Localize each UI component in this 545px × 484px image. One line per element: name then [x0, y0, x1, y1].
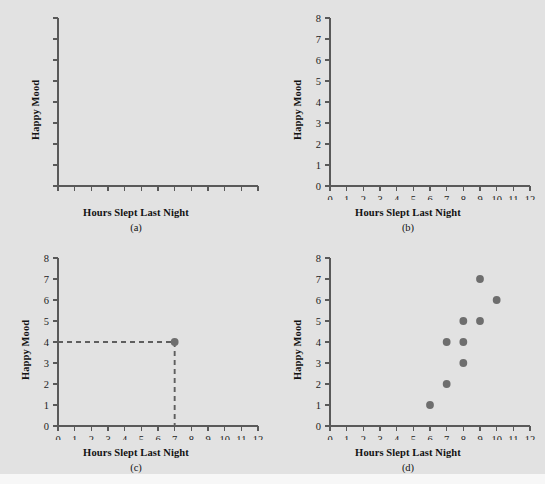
x-tick-label-12: 12	[525, 194, 536, 200]
data-point-4	[459, 359, 467, 367]
y-tick-label-4: 4	[316, 97, 322, 108]
data-point-1	[171, 338, 179, 346]
x-tick-label-7: 7	[172, 434, 177, 440]
y-tick-label-8: 8	[316, 253, 321, 264]
y-tick-label-0: 0	[316, 421, 321, 432]
x-tick-label-10: 10	[491, 434, 502, 440]
panel-caption-b: (b)	[272, 222, 544, 233]
y-tick-label-2: 2	[316, 139, 321, 150]
x-tick-label-0: 0	[55, 434, 60, 440]
x-tick-label-9: 9	[205, 434, 210, 440]
y-tick-label-1: 1	[44, 400, 49, 411]
x-tick-label-4: 4	[122, 434, 128, 440]
x-tick-label-3: 3	[377, 434, 382, 440]
y-tick-label-6: 6	[44, 295, 49, 306]
panel-d: 0123456789101112012345678 Hours Slept La…	[272, 240, 544, 477]
data-point-5	[459, 338, 467, 346]
plot-area-c: 0123456789101112012345678	[0, 240, 272, 440]
x-axis-title-d: Hours Slept Last Night	[272, 447, 544, 458]
y-axis-title-b: Happy Mood	[292, 80, 303, 140]
panel-b: 0123456789101112012345678 Hours Slept La…	[272, 0, 544, 237]
x-tick-label-7: 7	[444, 194, 449, 200]
panel-c: 0123456789101112012345678 Hours Slept La…	[0, 240, 272, 477]
x-tick-label-8: 8	[461, 434, 466, 440]
panel-caption-a: (a)	[0, 222, 272, 233]
data-point-6	[459, 317, 467, 325]
y-tick-label-3: 3	[316, 358, 321, 369]
y-tick-label-0: 0	[44, 421, 49, 432]
y-tick-label-4: 4	[44, 337, 50, 348]
y-tick-label-8: 8	[44, 253, 49, 264]
panel-caption-d: (d)	[272, 462, 544, 473]
y-axis-title-a: Happy Mood	[30, 80, 41, 140]
x-tick-label-11: 11	[508, 194, 518, 200]
x-tick-label-4: 4	[394, 434, 400, 440]
x-tick-label-12: 12	[253, 434, 264, 440]
x-axis-title-c: Hours Slept Last Night	[0, 447, 272, 458]
x-tick-label-1: 1	[344, 194, 349, 200]
x-tick-label-7: 7	[444, 434, 449, 440]
x-axis-title-b: Hours Slept Last Night	[272, 207, 544, 218]
y-tick-label-5: 5	[316, 316, 321, 327]
x-tick-label-5: 5	[411, 194, 416, 200]
y-tick-label-5: 5	[316, 76, 321, 87]
panel-a: Hours Slept Last Night (a) Happy Mood	[0, 0, 272, 237]
x-tick-label-0: 0	[327, 434, 332, 440]
y-tick-label-6: 6	[316, 295, 321, 306]
y-tick-label-6: 6	[316, 55, 321, 66]
data-point-8	[476, 275, 484, 283]
x-tick-label-2: 2	[361, 434, 366, 440]
data-point-2	[443, 380, 451, 388]
axis-lines	[330, 258, 530, 426]
x-tick-label-8: 8	[461, 194, 466, 200]
axis-lines	[330, 18, 530, 186]
plot-area-b: 0123456789101112012345678	[272, 0, 544, 200]
x-tick-label-2: 2	[89, 434, 94, 440]
x-tick-label-4: 4	[394, 194, 400, 200]
plot-area-d: 0123456789101112012345678	[272, 240, 544, 440]
x-tick-label-10: 10	[491, 194, 502, 200]
x-tick-label-12: 12	[525, 434, 536, 440]
y-tick-label-4: 4	[316, 337, 322, 348]
y-tick-label-0: 0	[316, 181, 321, 192]
x-tick-label-9: 9	[477, 434, 482, 440]
bottom-white-strip	[0, 474, 545, 484]
y-tick-label-3: 3	[44, 358, 49, 369]
x-tick-label-10: 10	[219, 434, 230, 440]
x-tick-label-1: 1	[72, 434, 77, 440]
y-axis-title-c: Happy Mood	[20, 320, 31, 380]
x-tick-label-6: 6	[427, 194, 432, 200]
y-tick-label-1: 1	[316, 400, 321, 411]
y-tick-label-3: 3	[316, 118, 321, 129]
x-tick-label-5: 5	[411, 434, 416, 440]
x-tick-label-2: 2	[361, 194, 366, 200]
panel-caption-c: (c)	[0, 462, 272, 473]
x-tick-label-3: 3	[377, 194, 382, 200]
x-tick-label-6: 6	[427, 434, 432, 440]
figure-sheet: Hours Slept Last Night (a) Happy Mood 01…	[0, 0, 545, 474]
data-point-9	[493, 296, 501, 304]
y-axis-title-d: Happy Mood	[292, 320, 303, 380]
x-axis-title-a: Hours Slept Last Night	[0, 207, 272, 218]
x-tick-label-9: 9	[477, 194, 482, 200]
x-tick-label-6: 6	[155, 434, 160, 440]
x-tick-label-8: 8	[189, 434, 194, 440]
y-tick-label-8: 8	[316, 13, 321, 24]
x-tick-label-3: 3	[105, 434, 110, 440]
data-point-3	[443, 338, 451, 346]
y-tick-label-2: 2	[44, 379, 49, 390]
y-tick-label-1: 1	[316, 160, 321, 171]
x-tick-label-1: 1	[344, 434, 349, 440]
y-tick-label-5: 5	[44, 316, 49, 327]
axis-lines	[58, 18, 258, 186]
x-tick-label-5: 5	[139, 434, 144, 440]
y-tick-label-2: 2	[316, 379, 321, 390]
y-tick-label-7: 7	[316, 274, 321, 285]
x-tick-label-11: 11	[236, 434, 246, 440]
x-tick-label-11: 11	[508, 434, 518, 440]
x-tick-label-0: 0	[327, 194, 332, 200]
y-tick-label-7: 7	[316, 34, 321, 45]
data-point-1	[426, 401, 434, 409]
y-tick-label-7: 7	[44, 274, 49, 285]
data-point-7	[476, 317, 484, 325]
